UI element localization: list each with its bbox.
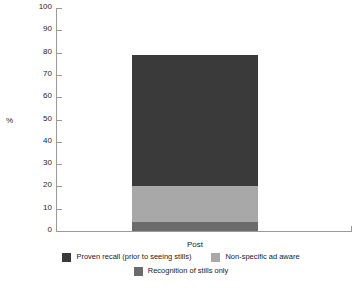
bar-segment-non-specific-ad-aware[interactable] — [132, 186, 258, 222]
y-tick-label-70: 70 — [18, 69, 52, 79]
y-tick-mark-40 — [56, 142, 62, 143]
bar-stack-post[interactable] — [132, 55, 258, 231]
legend-swatch-icon — [62, 253, 71, 262]
y-tick-60: 60 — [10, 97, 62, 98]
y-tick-mark-90 — [56, 30, 62, 31]
y-tick-30: 30 — [10, 164, 62, 165]
legend-label: Recognition of stills only — [148, 266, 228, 276]
stacked-bar-chart: % 0 10 20 30 40 50 60 — [0, 0, 362, 298]
y-tick-mark-0 — [56, 231, 62, 232]
y-tick-mark-50 — [56, 120, 62, 121]
y-tick-mark-20 — [56, 186, 62, 187]
legend-item-proven-recall[interactable]: Proven recall (prior to seeing stills) — [62, 252, 191, 262]
y-tick-mark-100 — [56, 8, 62, 9]
legend-item-recognition-of-stills-only[interactable]: Recognition of stills only — [134, 266, 228, 276]
y-tick-20: 20 — [10, 186, 62, 187]
y-tick-label-30: 30 — [18, 158, 52, 168]
y-tick-mark-30 — [56, 164, 62, 165]
legend-row-1: Proven recall (prior to seeing stills) N… — [0, 252, 362, 262]
x-axis-end-tick — [351, 226, 352, 232]
chart-legend: Proven recall (prior to seeing stills) N… — [0, 252, 362, 280]
y-tick-mark-10 — [56, 209, 62, 210]
y-tick-40: 40 — [10, 142, 62, 143]
legend-label: Non-specific ad aware — [225, 252, 299, 262]
y-tick-mark-70 — [56, 75, 62, 76]
y-tick-70: 70 — [10, 75, 62, 76]
y-tick-mark-80 — [56, 53, 62, 54]
y-tick-0: 0 — [10, 231, 62, 232]
y-tick-label-0: 0 — [18, 225, 52, 235]
y-tick-label-80: 80 — [18, 47, 52, 57]
y-tick-label-10: 10 — [18, 203, 52, 213]
plot-area: 0 10 20 30 40 50 60 70 — [56, 8, 352, 232]
legend-swatch-icon — [134, 267, 143, 276]
y-tick-label-90: 90 — [18, 24, 52, 34]
y-tick-label-20: 20 — [18, 180, 52, 190]
y-tick-mark-60 — [56, 97, 62, 98]
y-axis-title: % — [6, 116, 13, 126]
bar-segment-proven-recall[interactable] — [132, 55, 258, 187]
x-axis-line — [56, 231, 352, 232]
y-tick-label-60: 60 — [18, 91, 52, 101]
legend-swatch-icon — [211, 253, 220, 262]
y-tick-80: 80 — [10, 53, 62, 54]
y-tick-label-50: 50 — [18, 114, 52, 124]
legend-label: Proven recall (prior to seeing stills) — [76, 252, 191, 262]
y-tick-50: 50 — [10, 120, 62, 121]
y-tick-label-40: 40 — [18, 136, 52, 146]
legend-row-2: Recognition of stills only — [0, 266, 362, 276]
y-tick-label-100: 100 — [18, 2, 52, 12]
bar-segment-recognition-of-stills-only[interactable] — [132, 222, 258, 231]
y-tick-90: 90 — [10, 30, 62, 31]
y-tick-100: 100 — [10, 8, 62, 9]
legend-item-non-specific-ad-aware[interactable]: Non-specific ad aware — [211, 252, 299, 262]
x-tick-label-post: Post — [132, 240, 258, 250]
y-tick-10: 10 — [10, 209, 62, 210]
